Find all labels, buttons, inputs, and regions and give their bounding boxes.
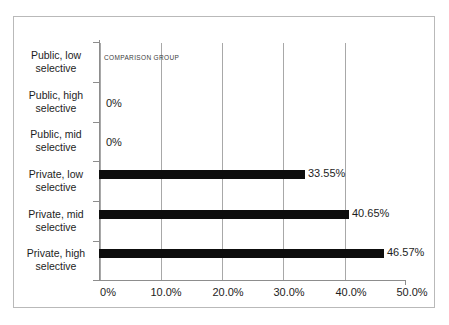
bar-private-mid-selective: [99, 210, 349, 219]
bar-private-high-selective: [99, 249, 384, 258]
x-axis-label-20: 20.0%: [212, 286, 243, 298]
y-axis-line: [99, 40, 100, 281]
comparison-group-annotation: COMPARISON GROUP: [104, 54, 179, 61]
x-axis-label-40: 40.0%: [335, 286, 366, 298]
y-axis-tick-5: [93, 241, 99, 242]
x-axis-baseline: [99, 280, 406, 281]
gridline-10: [161, 43, 162, 281]
category-label-line1: Private, high: [16, 247, 96, 260]
x-axis-label-50: 50.0%: [396, 286, 427, 298]
bar-private-low-selective: [99, 170, 305, 179]
y-axis-tick-0: [93, 42, 99, 43]
category-label-line1: Public, high: [16, 89, 96, 102]
gridline-30: [283, 43, 284, 281]
category-label-line2: selective: [16, 62, 96, 75]
category-label-line1: Private, low: [16, 168, 96, 181]
y-axis-tick-2: [93, 122, 99, 123]
category-label-public-low-selective: Public, low selective: [16, 49, 96, 74]
y-axis-tick-6: [93, 280, 99, 281]
category-label-line2: selective: [16, 221, 96, 234]
category-label-line2: selective: [16, 102, 96, 115]
gridline-0: [100, 43, 101, 281]
category-label-line2: selective: [16, 141, 96, 154]
value-label-private-high-selective: 46.57%: [387, 247, 424, 258]
x-axis-label-0: 0%: [100, 286, 116, 298]
gridline-20: [222, 43, 223, 281]
value-label-public-mid-selective: 0%: [106, 137, 122, 148]
value-label-private-mid-selective: 40.65%: [352, 208, 389, 219]
category-label-line1: Public, low: [16, 49, 96, 62]
scanned-page: Public, low selective Public, high selec…: [0, 0, 449, 325]
y-axis-tick-4: [93, 201, 99, 202]
category-label-public-high-selective: Public, high selective: [16, 89, 96, 114]
y-axis-tick-1: [93, 82, 99, 83]
x-axis-label-30: 30.0%: [273, 286, 304, 298]
category-label-line2: selective: [16, 260, 96, 273]
category-label-line1: Private, mid: [16, 208, 96, 221]
gridline-40: [345, 43, 346, 281]
category-label-private-low-selective: Private, low selective: [16, 168, 96, 193]
category-label-public-mid-selective: Public, mid selective: [16, 128, 96, 153]
x-axis-label-10: 10.0%: [150, 286, 181, 298]
category-label-private-mid-selective: Private, mid selective: [16, 208, 96, 233]
category-label-line1: Public, mid: [16, 128, 96, 141]
value-label-public-high-selective: 0%: [106, 98, 122, 109]
category-label-line2: selective: [16, 181, 96, 194]
category-label-private-high-selective: Private, high selective: [16, 247, 96, 272]
value-label-private-low-selective: 33.55%: [308, 168, 345, 179]
x-axis-tick-50: [405, 280, 406, 285]
y-axis-tick-3: [93, 161, 99, 162]
